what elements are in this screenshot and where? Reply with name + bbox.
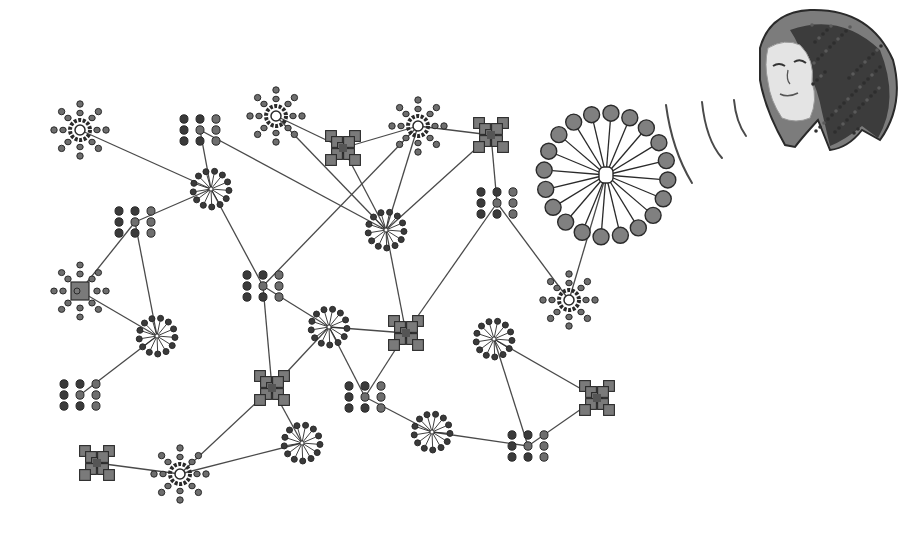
grid-node-icon xyxy=(477,188,517,218)
spoke-node-icon xyxy=(136,315,178,357)
sun-x-node-icon xyxy=(51,262,109,320)
x-node-icon xyxy=(580,381,615,416)
sun-node-icon xyxy=(247,87,305,145)
sun-node-icon xyxy=(540,271,598,329)
hub-node-icon xyxy=(536,105,676,245)
diagram-canvas xyxy=(0,0,923,542)
sun-node-icon xyxy=(151,445,209,503)
sun-node-icon xyxy=(389,97,447,155)
edge-line xyxy=(263,286,329,327)
grid-node-icon xyxy=(60,380,100,410)
edge-line xyxy=(135,189,211,222)
spoke-node-icon xyxy=(411,411,453,453)
edge-line xyxy=(365,397,432,432)
edge-line xyxy=(80,222,135,291)
network-diagram xyxy=(0,0,923,542)
grid-node-icon xyxy=(115,207,155,237)
grid-node-icon xyxy=(180,115,220,145)
x-node-icon xyxy=(389,316,424,351)
edge-layer xyxy=(80,116,606,474)
sound-waves-icon xyxy=(666,100,746,183)
node-layer xyxy=(51,87,676,503)
sun-node-icon xyxy=(51,101,109,159)
grid-node-icon xyxy=(345,382,385,412)
edge-line xyxy=(80,291,157,336)
spoke-node-icon xyxy=(190,168,232,210)
x-node-icon xyxy=(255,371,290,406)
edge-line xyxy=(80,130,211,189)
edge-line xyxy=(406,203,497,333)
x-node-icon xyxy=(474,118,509,153)
spoke-node-icon xyxy=(473,318,515,360)
spoke-node-icon xyxy=(281,422,323,464)
spoke-node-icon xyxy=(365,209,407,251)
person-head-icon xyxy=(760,10,897,150)
grid-node-icon xyxy=(243,271,283,301)
x-node-icon xyxy=(80,446,115,481)
x-node-icon xyxy=(326,131,361,166)
grid-node-icon xyxy=(508,431,548,461)
